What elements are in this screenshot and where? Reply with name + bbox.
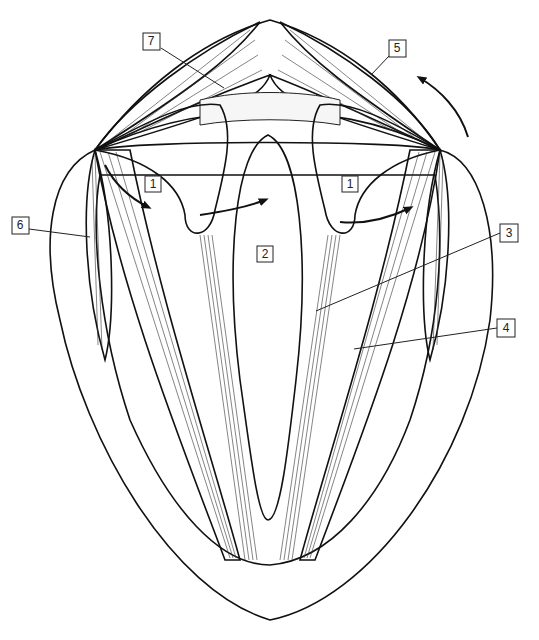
svg-text:1: 1 xyxy=(150,177,157,191)
label-2: 2 xyxy=(257,246,273,262)
muscle-7 xyxy=(95,22,270,150)
vocal-fold-right xyxy=(280,235,340,560)
label-1-right: 1 xyxy=(342,176,358,192)
svg-text:5: 5 xyxy=(394,41,401,55)
cricoid-ring xyxy=(50,143,492,621)
label-4: 4 xyxy=(497,319,515,337)
label-1-left: 1 xyxy=(145,176,161,192)
svg-text:6: 6 xyxy=(17,218,24,232)
svg-text:4: 4 xyxy=(503,321,510,335)
label-5: 5 xyxy=(389,40,406,57)
svg-text:2: 2 xyxy=(262,247,269,261)
larynx-diagram: 1 1 2 3 4 5 6 7 xyxy=(0,0,539,640)
label-7: 7 xyxy=(143,33,160,50)
vocal-fold-left xyxy=(200,235,257,560)
svg-text:1: 1 xyxy=(347,177,354,191)
rotation-arrow-top-right xyxy=(420,78,468,137)
svg-text:3: 3 xyxy=(506,226,513,240)
label-6: 6 xyxy=(12,217,29,234)
rotation-arrow-left-arytenoid xyxy=(200,200,265,215)
muscle-5 xyxy=(270,22,440,150)
svg-text:7: 7 xyxy=(148,34,155,48)
interarytenoid-band xyxy=(200,93,340,126)
label-3: 3 xyxy=(500,224,518,242)
